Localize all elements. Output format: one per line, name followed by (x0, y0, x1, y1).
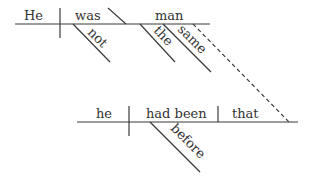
word-that: that (232, 106, 259, 121)
word-the: the (151, 23, 177, 49)
main-complement-divider (108, 8, 126, 24)
word-same: same (175, 22, 210, 57)
word-he-main: He (24, 8, 43, 23)
sentence-diagram: He was man not the same he had been that… (0, 0, 316, 182)
word-not: not (85, 25, 111, 51)
word-before: before (168, 121, 209, 162)
word-had-been: had been (146, 106, 207, 121)
word-was: was (75, 8, 101, 23)
word-he-sub: he (96, 106, 112, 121)
word-man: man (155, 8, 184, 23)
